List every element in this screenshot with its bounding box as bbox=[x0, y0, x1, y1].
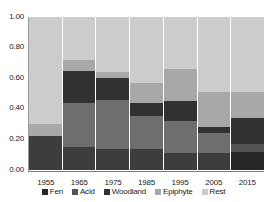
bar-segment[interactable] bbox=[96, 100, 129, 149]
x-axis-labels: 1955196519751985199520052015 bbox=[29, 178, 264, 187]
bar-segment[interactable] bbox=[130, 17, 163, 83]
bar-column[interactable] bbox=[29, 17, 63, 170]
legend-label: Fen bbox=[50, 188, 63, 196]
bar-segment[interactable] bbox=[164, 17, 197, 69]
y-axis-tick-label: 0.40 bbox=[0, 104, 24, 112]
x-axis-tick-label: 2005 bbox=[197, 178, 231, 187]
bar-segment[interactable] bbox=[96, 149, 129, 170]
x-axis-line bbox=[28, 171, 264, 172]
bar-segment[interactable] bbox=[198, 133, 231, 153]
bar-segment[interactable] bbox=[231, 17, 264, 92]
y-axis-tick-label: 0.20 bbox=[0, 135, 24, 143]
bar-segment[interactable] bbox=[231, 118, 264, 144]
legend-item[interactable]: Fen bbox=[42, 188, 63, 196]
x-axis-tick-label: 1955 bbox=[29, 178, 63, 187]
bar-segment[interactable] bbox=[130, 83, 163, 103]
bar-segment[interactable] bbox=[130, 103, 163, 117]
legend-item[interactable]: Woodland bbox=[104, 188, 146, 196]
bar-segment[interactable] bbox=[29, 136, 62, 170]
x-axis-tick-label: 1975 bbox=[96, 178, 130, 187]
bar-segment[interactable] bbox=[164, 101, 197, 121]
bar-segment[interactable] bbox=[130, 149, 163, 170]
bar-segment[interactable] bbox=[96, 17, 129, 72]
bar-segment[interactable] bbox=[198, 153, 231, 170]
bar-segment[interactable] bbox=[164, 121, 197, 153]
legend-swatch-icon bbox=[155, 189, 161, 195]
stacked-bar-chart: 1.00 0.80 0.60 0.40 0.20 0.00 1955196519… bbox=[0, 0, 267, 202]
y-axis-tick-label: 0.60 bbox=[0, 74, 24, 82]
legend-swatch-icon bbox=[202, 189, 208, 195]
bar-segment[interactable] bbox=[198, 17, 231, 92]
bar-segment[interactable] bbox=[63, 147, 96, 170]
bar-column[interactable] bbox=[63, 17, 97, 170]
bar-segment[interactable] bbox=[63, 103, 96, 147]
legend-swatch-icon bbox=[104, 189, 110, 195]
y-axis-tick-label: 0.00 bbox=[0, 166, 24, 174]
bar-segment[interactable] bbox=[198, 92, 231, 127]
bar-column[interactable] bbox=[130, 17, 164, 170]
bar-segment[interactable] bbox=[63, 60, 96, 71]
legend-item[interactable]: Epiphyte bbox=[155, 188, 193, 196]
x-axis-tick-label: 2015 bbox=[230, 178, 264, 187]
bar-segment[interactable] bbox=[96, 78, 129, 99]
x-axis-tick-label: 1965 bbox=[63, 178, 97, 187]
bar-column[interactable] bbox=[231, 17, 264, 170]
bar-segment[interactable] bbox=[63, 71, 96, 103]
bar-column[interactable] bbox=[96, 17, 130, 170]
y-axis-tick-label: 1.00 bbox=[0, 13, 24, 21]
bar-segment[interactable] bbox=[29, 124, 62, 136]
legend-item[interactable]: Acid bbox=[72, 188, 95, 196]
legend-swatch-icon bbox=[72, 189, 78, 195]
bar-segment[interactable] bbox=[164, 153, 197, 170]
legend-item[interactable]: Rest bbox=[202, 188, 226, 196]
bar-column[interactable] bbox=[198, 17, 232, 170]
bar-column[interactable] bbox=[164, 17, 198, 170]
legend-swatch-icon bbox=[42, 189, 48, 195]
y-axis-tick-label: 0.80 bbox=[0, 43, 24, 51]
x-axis-tick-label: 1995 bbox=[163, 178, 197, 187]
chart-legend: FenAcidWoodlandEpiphyteRest bbox=[0, 188, 267, 196]
legend-label: Rest bbox=[210, 188, 226, 196]
bar-segment[interactable] bbox=[29, 17, 62, 124]
legend-label: Woodland bbox=[112, 188, 146, 196]
plot-area: 1.00 0.80 0.60 0.40 0.20 0.00 1955196519… bbox=[0, 10, 267, 175]
bar-segment[interactable] bbox=[63, 17, 96, 60]
legend-label: Acid bbox=[80, 188, 95, 196]
bar-segment[interactable] bbox=[231, 92, 264, 118]
bar-segment[interactable] bbox=[164, 69, 197, 101]
bar-segment[interactable] bbox=[231, 144, 264, 152]
bar-segment[interactable] bbox=[231, 152, 264, 170]
x-axis-tick-label: 1985 bbox=[130, 178, 164, 187]
chart-title-clipped bbox=[30, 0, 230, 7]
bars-region bbox=[29, 17, 264, 170]
legend-label: Epiphyte bbox=[163, 188, 193, 196]
bar-segment[interactable] bbox=[130, 116, 163, 148]
